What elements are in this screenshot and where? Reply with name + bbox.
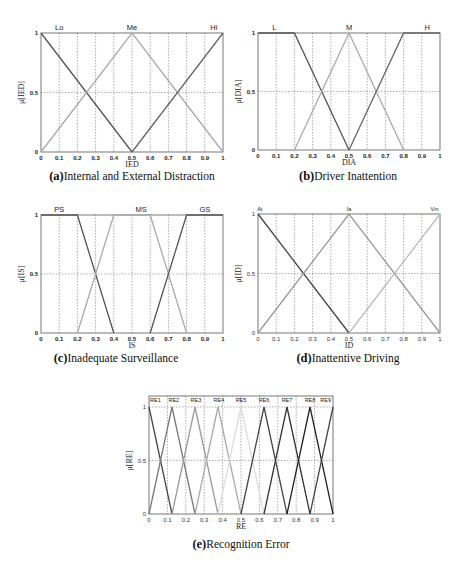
x-tick-label: 1 [331, 517, 335, 523]
caption-e-letter: (e) [192, 537, 206, 551]
mf-label: RE7 [282, 397, 293, 403]
chart-e: RE1RE2RE3RE4RE5RE6RE7RE8RE900.10.20.30.4… [0, 0, 464, 562]
x-tick-label: 0.8 [292, 517, 301, 523]
mf-label: RE6 [259, 397, 270, 403]
mf-label: RE4 [214, 397, 225, 403]
x-tick-label: 0 [147, 517, 151, 523]
x-tick-label: 0.9 [310, 517, 319, 523]
mf-label: RE8 [305, 397, 316, 403]
x-tick-label: 0.3 [200, 517, 209, 523]
y-axis-label: μ[RE] [125, 450, 134, 470]
y-tick-label: 1 [143, 404, 147, 410]
x-tick-label: 0.1 [163, 517, 172, 523]
x-tick-label: 0.2 [182, 517, 191, 523]
x-tick-label: 0.4 [218, 517, 227, 523]
y-tick-label: 0 [143, 511, 147, 517]
mf-label: RE3 [191, 397, 202, 403]
chart-e-svg: RE1RE2RE3RE4RE5RE6RE7RE8RE900.10.20.30.4… [0, 0, 464, 562]
x-tick-label: 0.6 [255, 517, 264, 523]
mf-label: RE5 [236, 397, 247, 403]
mf-label: RE2 [168, 397, 179, 403]
y-tick-label: 0.5 [138, 458, 147, 464]
grid [149, 396, 333, 514]
x-tick-label: 0.7 [274, 517, 283, 523]
mf-label: RE1 [150, 397, 161, 403]
caption-e: (e)Recognition Error [141, 537, 341, 552]
x-axis-label: RE [236, 522, 246, 531]
caption-e-text: Recognition Error [206, 538, 289, 550]
mf-label: RE9 [320, 397, 331, 403]
